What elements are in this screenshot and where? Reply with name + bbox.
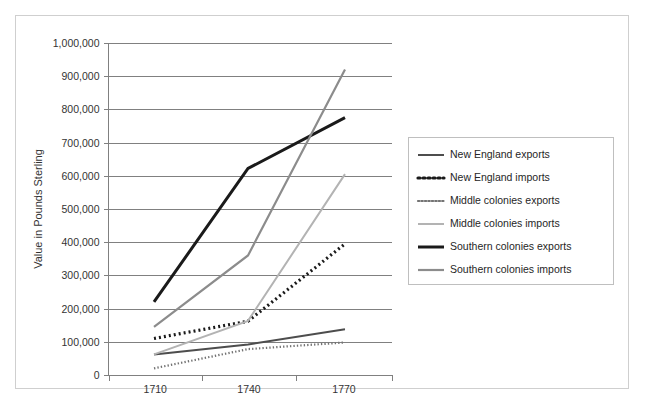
legend-label-2[interactable]: Middle colonies exports <box>450 194 560 206</box>
x-tick-labels-group: 171017401770 <box>144 383 356 395</box>
x-tick-label: 1710 <box>144 383 168 395</box>
y-tick-label: 100,000 <box>62 336 100 348</box>
y-tick-label: 600,000 <box>62 170 100 182</box>
legend-label-0[interactable]: New England exports <box>450 148 550 160</box>
legend-label-3[interactable]: Middle colonies imports <box>450 217 560 229</box>
series-line-2 <box>154 342 345 368</box>
series-line-1 <box>154 244 345 339</box>
line-chart: 0100,000200,000300,000400,000500,000600,… <box>0 0 645 404</box>
y-tick-label: 0 <box>94 369 100 381</box>
gridlines-group <box>109 44 393 343</box>
y-tick-label: 400,000 <box>62 236 100 248</box>
chart-figure: 0100,000200,000300,000400,000500,000600,… <box>0 0 645 404</box>
legend-label-1[interactable]: New England imports <box>450 171 550 183</box>
y-tick-label: 1,000,000 <box>53 37 100 49</box>
y-tick-label: 800,000 <box>62 103 100 115</box>
series-line-0 <box>154 329 345 354</box>
y-tick-label: 300,000 <box>62 269 100 281</box>
y-tick-labels-group: 0100,000200,000300,000400,000500,000600,… <box>53 37 100 381</box>
x-tick-label: 1740 <box>237 383 261 395</box>
series-group <box>154 70 345 369</box>
legend-label-5[interactable]: Southern colonies imports <box>450 263 571 275</box>
series-line-5 <box>154 70 345 327</box>
y-tick-label: 200,000 <box>62 303 100 315</box>
y-axis-title: Value in Pounds Sterling <box>32 149 44 269</box>
y-tick-marks-group <box>104 44 109 376</box>
y-tick-label: 500,000 <box>62 203 100 215</box>
y-tick-label: 900,000 <box>62 70 100 82</box>
legend-label-4[interactable]: Southern colonies exports <box>450 240 571 252</box>
x-tick-label: 1770 <box>332 383 356 395</box>
y-tick-label: 700,000 <box>62 137 100 149</box>
series-line-3 <box>154 174 345 354</box>
